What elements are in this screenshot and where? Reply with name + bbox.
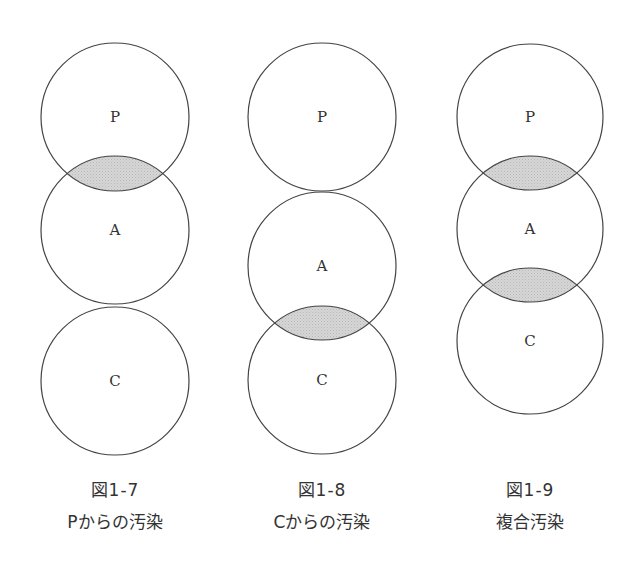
overlap-p-a-fig1 xyxy=(67,156,163,191)
label-p-fig3: P xyxy=(525,108,535,126)
caption-figure-1-8: 図1-8 Cからの汚染 xyxy=(222,478,422,534)
overlap-a-c-fig2 xyxy=(275,306,369,340)
figure-number: 図1-8 xyxy=(222,478,422,502)
label-p-fig1: P xyxy=(110,108,120,126)
caption-figure-1-7: 図1-7 Pからの汚染 xyxy=(15,478,215,534)
figure-number: 図1-7 xyxy=(15,478,215,502)
figure-number: 図1-9 xyxy=(430,478,630,502)
figure-caption: Pからの汚染 xyxy=(15,510,215,534)
overlap-p-a-fig3 xyxy=(483,156,577,190)
label-c-fig3: C xyxy=(524,332,535,350)
circle-labels: PACPACPAC xyxy=(109,108,536,390)
label-a-fig2: A xyxy=(316,257,328,275)
figure-caption: 複合汚染 xyxy=(430,510,630,534)
label-a-fig3: A xyxy=(524,220,536,238)
circles xyxy=(41,43,603,455)
label-c-fig2: C xyxy=(316,371,327,389)
label-a-fig1: A xyxy=(109,221,121,239)
overlap-a-c-fig3 xyxy=(483,268,577,302)
figure-caption: Cからの汚染 xyxy=(222,510,422,534)
label-c-fig1: C xyxy=(109,372,120,390)
label-p-fig2: P xyxy=(317,108,327,126)
caption-figure-1-9: 図1-9 複合汚染 xyxy=(430,478,630,534)
